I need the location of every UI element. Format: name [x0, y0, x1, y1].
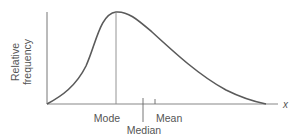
y-axis-label-line2: frequency — [21, 38, 33, 85]
skewed-distribution-diagram: Relative frequency x Mode Median Mean — [0, 0, 297, 140]
x-axis-label: x — [282, 99, 289, 110]
y-axis-label-line1: Relative — [9, 43, 21, 81]
mean-label: Mean — [156, 112, 182, 124]
median-label: Median — [127, 124, 162, 136]
distribution-curve — [47, 12, 266, 104]
mode-label: Mode — [94, 112, 120, 124]
